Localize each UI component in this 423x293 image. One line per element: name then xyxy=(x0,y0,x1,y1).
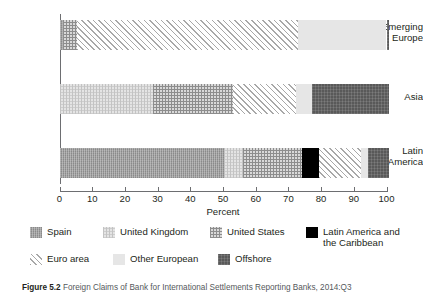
legend-row-2: Euro area Other European Offshore xyxy=(0,253,423,275)
bar-emerging-europe xyxy=(60,20,390,50)
bar-segment-other xyxy=(361,148,368,178)
bar-segment-offshore xyxy=(368,148,389,178)
legend-swatch-united-kingdom-icon xyxy=(103,227,115,238)
bar-segment-us xyxy=(153,84,234,114)
figure-caption: Figure 5.2 Foreign Claims of Bank for In… xyxy=(22,283,422,293)
bar-segment-euro xyxy=(77,20,298,50)
legend-swatch-spain-icon xyxy=(30,227,42,238)
bar-segment-other xyxy=(298,20,387,50)
legend-label-united-kingdom: United Kingdom xyxy=(120,226,188,237)
bar-segment-euro xyxy=(319,148,361,178)
x-axis-tick xyxy=(158,187,159,192)
x-axis-tick-label: 40 xyxy=(177,193,203,204)
bar-segment-euro xyxy=(233,84,295,114)
figure-caption-text: Foreign Claims of Bank for International… xyxy=(63,283,352,292)
legend-swatch-united-states-icon xyxy=(210,227,222,238)
x-axis-tick-label: 50 xyxy=(210,193,236,204)
bar-segment-other xyxy=(296,84,312,114)
x-axis-tick-label: 30 xyxy=(145,193,171,204)
legend-label-latin-america-caribbean: Latin America and the Caribbean xyxy=(323,226,415,248)
x-axis-tick xyxy=(354,187,355,192)
legend-row-1: Spain United Kingdom United States Latin… xyxy=(0,226,423,248)
legend-swatch-latin-america-caribbean-icon xyxy=(306,227,318,238)
x-axis-tick xyxy=(223,187,224,192)
legend-label-euro-area: Euro area xyxy=(47,253,89,264)
x-axis-tick-label: 70 xyxy=(275,193,301,204)
legend-swatch-offshore-icon xyxy=(218,254,230,265)
x-axis-tick xyxy=(387,187,388,192)
bar-segment-us xyxy=(243,148,302,178)
legend-item-united-kingdom: United Kingdom xyxy=(103,226,188,238)
x-axis-tick xyxy=(92,187,93,192)
figure-container: Emerging Europe Asia Latin America 01020… xyxy=(0,0,423,293)
legend-label-spain: Spain xyxy=(47,226,72,237)
bar-segment-latam xyxy=(302,148,320,178)
x-axis-title: Percent xyxy=(60,206,387,217)
legend-item-euro-area: Euro area xyxy=(30,253,89,265)
x-axis-tick xyxy=(321,187,322,192)
bar-segment-uk xyxy=(60,84,153,114)
legend-swatch-other-european-icon xyxy=(113,254,125,265)
legend-item-latin-america-caribbean: Latin America and the Caribbean xyxy=(306,226,415,248)
x-axis-tick-label: 90 xyxy=(341,193,367,204)
x-axis-tick-label: 10 xyxy=(79,193,105,204)
x-axis-tick-label: 80 xyxy=(308,193,334,204)
bar-segment-uk xyxy=(224,148,243,178)
legend-item-united-states: United States xyxy=(210,226,285,238)
x-axis-tick xyxy=(60,187,61,192)
bar-segment-offshore xyxy=(387,20,390,50)
x-axis-tick xyxy=(125,187,126,192)
legend-item-other-european: Other European xyxy=(113,253,198,265)
bar-segment-offshore xyxy=(312,84,390,114)
legend-item-spain: Spain xyxy=(30,226,72,238)
figure-caption-number: Figure 5.2 xyxy=(22,283,61,292)
bar-segment-us xyxy=(63,20,77,50)
x-axis-tick xyxy=(190,187,191,192)
x-axis-tick xyxy=(288,187,289,192)
x-axis-tick xyxy=(256,187,257,192)
bar-asia xyxy=(60,84,390,114)
x-axis-tick-label: 0 xyxy=(47,193,73,204)
bar-segment-spain xyxy=(60,148,225,178)
x-axis-tick-label: 60 xyxy=(243,193,269,204)
legend-label-other-european: Other European xyxy=(130,253,198,264)
legend-label-offshore: Offshore xyxy=(235,253,272,264)
legend-item-offshore: Offshore xyxy=(218,253,272,265)
x-axis-tick-label: 100 xyxy=(374,193,400,204)
x-axis-tick-label: 20 xyxy=(112,193,138,204)
bar-latin-america xyxy=(60,148,390,178)
chart-plot-area: Emerging Europe Asia Latin America 01020… xyxy=(0,0,423,210)
legend-swatch-euro-area-icon xyxy=(30,254,42,265)
legend-label-united-states: United States xyxy=(227,226,285,237)
